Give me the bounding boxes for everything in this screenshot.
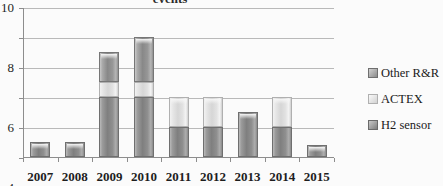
bar-top-highlight [136,39,152,44]
x-tick-mark [23,158,24,162]
legend-item[interactable]: ACTEX [368,86,443,112]
bar-stack[interactable] [307,145,327,157]
bar-segment[interactable] [169,127,189,157]
y-tick-mark: 6 [19,68,23,69]
x-tick-mark [58,158,59,162]
swatch-h2-sensor-icon [368,120,378,130]
x-tick-label: 2014 [269,169,295,185]
bar-top-highlight [309,147,325,152]
x-tick-label: 2011 [166,169,191,185]
bar-top-highlight [171,99,187,104]
gridline [24,38,334,39]
bar-segment[interactable] [65,142,85,157]
bar-stack[interactable] [203,97,223,157]
x-tick-label: 2009 [96,169,122,185]
y-tick-mark: 2 [19,128,23,129]
x-tick-label: 2010 [131,169,157,185]
x-tick-label: 2015 [304,169,330,185]
bar-stack[interactable] [169,97,189,157]
bar-segment[interactable] [169,97,189,127]
bar-segment[interactable] [272,97,292,127]
x-tick-label: 2008 [62,169,88,185]
legend-item[interactable]: H2 sensor [368,112,443,138]
bar-segment[interactable] [238,112,258,157]
bar-segment[interactable] [272,127,292,157]
x-tick-mark [92,158,93,162]
bar-segment[interactable] [99,97,119,157]
legend-item-label: ACTEX [381,92,423,107]
y-tick-label: 10 [1,0,14,16]
chart-legend: Other R&RACTEXH2 sensor [368,60,443,138]
x-tick-mark [334,158,335,162]
swatch-other-rr-icon [368,68,378,78]
gridline [24,8,334,9]
stacked-bar-chart: events 0246810 2007200820092010201120122… [0,0,443,186]
bar-top-highlight [32,144,48,149]
swatch-actex-icon [368,94,378,104]
bar-segment[interactable] [99,52,119,82]
legend-item[interactable]: Other R&R [368,60,443,86]
y-axis-line [23,8,24,158]
y-tick-label: 4 [8,180,15,186]
bar-stack[interactable] [99,52,119,157]
x-tick-mark [230,158,231,162]
bar-stack[interactable] [30,142,50,157]
chart-title: events [0,0,340,7]
x-axis-line [23,157,334,158]
bar-stack[interactable] [65,142,85,157]
gridline [24,68,334,69]
y-tick-mark: 4 [19,98,23,99]
y-tick-label: 6 [8,120,15,136]
bar-segment[interactable] [30,142,50,157]
y-tick-mark: 8 [19,38,23,39]
x-tick-mark [196,158,197,162]
bar-top-highlight [67,144,83,149]
bar-top-highlight [205,99,221,104]
bar-top-highlight [101,54,117,59]
bar-segment[interactable] [99,82,119,97]
bar-segment[interactable] [307,145,327,157]
x-tick-label: 2012 [200,169,226,185]
x-tick-mark [161,158,162,162]
bar-stack[interactable] [238,112,258,157]
bar-stack[interactable] [134,37,154,157]
bar-top-highlight [240,114,256,119]
y-tick-label: 8 [8,60,15,76]
bar-segment[interactable] [203,97,223,127]
legend-item-label: H2 sensor [381,118,431,133]
x-tick-label: 2007 [27,169,53,185]
legend-item-label: Other R&R [381,66,439,81]
x-tick-mark [127,158,128,162]
plot-area: 0246810 20072008200920102011201220132014… [23,8,334,158]
bar-stack[interactable] [272,97,292,157]
bar-segment[interactable] [134,82,154,97]
x-tick-mark [265,158,266,162]
x-tick-mark [299,158,300,162]
bar-segment[interactable] [203,127,223,157]
bar-segment[interactable] [134,97,154,157]
y-tick-mark: 10 [19,8,23,9]
bar-segment[interactable] [134,37,154,82]
bar-top-highlight [274,99,290,104]
x-tick-label: 2013 [235,169,261,185]
